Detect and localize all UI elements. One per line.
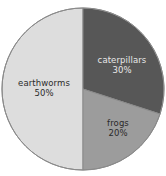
pie-label-earthworms-value: 50% — [6, 88, 82, 98]
pie-label-frogs-name: frogs — [92, 118, 144, 128]
pie-label-caterpillars-name: caterpillars — [88, 55, 156, 65]
pie-label-earthworms-name: earthworms — [6, 78, 82, 88]
pie-label-caterpillars-value: 30% — [88, 65, 156, 75]
pie-label-frogs-value: 20% — [92, 128, 144, 138]
pie-label-earthworms: earthworms 50% — [6, 78, 82, 98]
pie-label-caterpillars: caterpillars 30% — [88, 55, 156, 75]
pie-chart-figure: earthworms 50% caterpillars 30% frogs 20… — [0, 0, 166, 176]
pie-label-frogs: frogs 20% — [92, 118, 144, 138]
